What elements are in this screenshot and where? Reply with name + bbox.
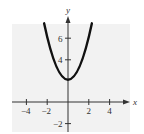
chart: x y −4 −2 2 4 6 4 −2: [0, 0, 144, 134]
y-tick-label: 4: [58, 55, 63, 65]
x-tick-label: 4: [107, 106, 112, 116]
x-tick-label: −4: [21, 106, 31, 116]
y-tick-label: −2: [53, 119, 63, 129]
y-axis-label: y: [65, 5, 70, 15]
x-tick-label: −2: [42, 106, 52, 116]
x-tick-label: 2: [87, 106, 92, 116]
x-axis-label: x: [132, 97, 137, 107]
y-axis-arrow-icon: [66, 16, 71, 23]
y-tick-label: 6: [58, 34, 63, 44]
